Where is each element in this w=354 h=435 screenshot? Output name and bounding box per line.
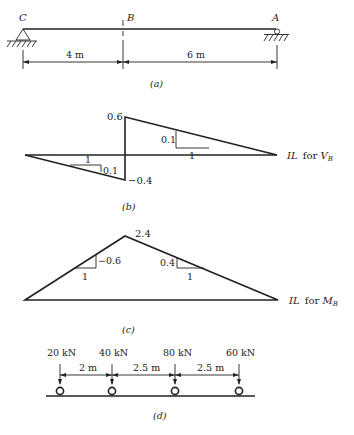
load-arrow-60kn [235, 364, 242, 395]
caption-c: (c) [122, 324, 135, 335]
spacing-label-1: 2 m [79, 362, 97, 373]
panel-a-beam-diagram: C B A 4 m 6 m [7, 12, 289, 89]
il-title-mb: IL for MB [288, 295, 338, 308]
slope-rise-left: −0.6 [98, 255, 121, 266]
load-label-3: 80 kN [163, 347, 192, 358]
slope-run-right: 1 [187, 271, 193, 282]
slope-rise-right: 0.1 [161, 134, 176, 145]
point-label-a: A [271, 12, 279, 23]
roller-support-icon [264, 29, 289, 41]
point-label-b: B [126, 12, 134, 23]
min-value-label: −0.4 [128, 175, 152, 186]
panel-c-moment-influence-line: 1 −0.6 0.4 1 2.4 IL for MB (c) [25, 228, 338, 335]
panel-d-load-train: 20 kN 40 kN 80 kN 60 kN 2 m 2.5 m 2.5 m … [46, 347, 255, 421]
point-label-c: C [19, 12, 27, 23]
slope-rise-left: 0.1 [103, 165, 118, 176]
peak-value-label: 2.4 [135, 228, 151, 239]
caption-b: (b) [122, 201, 136, 212]
load-arrow-80kn [171, 364, 178, 395]
load-label-2: 40 kN [99, 347, 128, 358]
load-arrow-20kn [56, 364, 63, 395]
spacing-label-3: 2.5 m [197, 362, 224, 373]
slope-triangle-left [70, 165, 101, 172]
panel-b-shear-influence-line: 1 0.1 0.1 1 0.6 −0.4 IL for VB (b) [25, 111, 333, 212]
dimension-label-ba: 6 m [187, 49, 205, 60]
slope-run-left: 1 [85, 154, 91, 165]
spacing-dimension-line [60, 373, 239, 377]
pin-support-icon [7, 29, 37, 47]
slope-run-left: 1 [82, 271, 88, 282]
caption-d: (d) [153, 410, 167, 421]
max-value-label: 0.6 [107, 111, 123, 122]
load-arrow-40kn [108, 364, 115, 395]
influence-line-shape [25, 236, 278, 300]
slope-run-right: 1 [189, 150, 195, 161]
load-label-4: 60 kN [226, 347, 255, 358]
dimension-lines [23, 40, 277, 69]
caption-a: (a) [150, 78, 163, 89]
influence-line-figure: C B A 4 m 6 m [0, 0, 354, 435]
spacing-label-2: 2.5 m [133, 362, 160, 373]
load-label-1: 20 kN [47, 347, 76, 358]
influence-line-shape [25, 117, 277, 180]
dimension-label-cb: 4 m [66, 49, 84, 60]
slope-rise-right: 0.4 [160, 257, 175, 268]
il-title-vb: IL for VB [286, 150, 333, 163]
